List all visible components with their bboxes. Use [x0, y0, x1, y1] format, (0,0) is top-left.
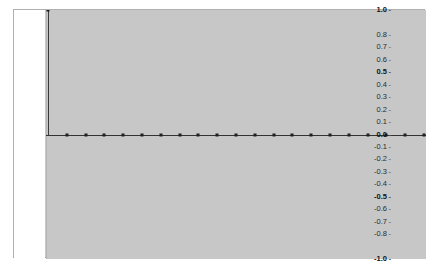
- y-axis-tick-label: 0.5-: [365, 68, 391, 76]
- y-axis-tick-mark: -: [388, 230, 391, 238]
- y-axis-tick-text: -1.0: [374, 254, 387, 263]
- y-axis-tick-mark: -: [388, 68, 391, 76]
- data-point-marker: [47, 10, 50, 12]
- y-axis-tick-label: 0.8-: [365, 31, 391, 39]
- y-axis-tick-mark: -: [388, 6, 391, 14]
- data-point-marker: [122, 134, 125, 137]
- data-point-marker: [160, 134, 163, 137]
- y-axis-tick-mark: -: [388, 81, 391, 89]
- y-axis-tick-mark: -: [388, 106, 391, 114]
- y-axis-tick-text: 0.7: [377, 42, 387, 51]
- y-axis-tick-text: -0.4: [374, 179, 387, 188]
- y-axis-tick-text: -0.3: [374, 167, 387, 176]
- y-axis-tick-mark: -: [388, 143, 391, 151]
- y-axis-tick-mark: -: [388, 93, 391, 101]
- y-axis-tick-label: -0.1-: [365, 143, 391, 151]
- y-axis-tick-label: 0.3-: [365, 93, 391, 101]
- y-axis-tick-text: 0.6: [377, 55, 387, 64]
- y-axis-tick-text: 0.8: [377, 30, 387, 39]
- y-axis-tick-text: 0.4: [377, 80, 387, 89]
- y-axis-tick-label: 0.7-: [365, 43, 391, 51]
- y-axis-tick-mark: -: [388, 255, 391, 263]
- y-axis-tick-label: -1.0-: [365, 255, 391, 263]
- data-point-marker: [197, 134, 200, 137]
- y-axis-tick-text: 0.1: [377, 117, 387, 126]
- y-axis-tick-mark: -: [388, 118, 391, 126]
- data-stem: [48, 10, 49, 135]
- y-axis-tick-label: 0.6-: [365, 56, 391, 64]
- y-axis-tick-label: 0.1-: [365, 118, 391, 126]
- y-axis-tick-label: -0.3-: [365, 168, 391, 176]
- y-axis-tick-text: -0.7: [374, 217, 387, 226]
- data-point-marker: [348, 134, 351, 137]
- y-axis-tick-text: 0.0: [377, 130, 387, 139]
- data-point-marker: [66, 134, 69, 137]
- y-axis-tick-label: -0.4-: [365, 180, 391, 188]
- y-axis-tick-label: 0.2-: [365, 106, 391, 114]
- y-axis-tick-text: -0.5: [374, 192, 387, 201]
- y-axis-tick-mark: -: [388, 193, 391, 201]
- data-point-marker: [273, 134, 276, 137]
- y-axis-tick-text: 0.3: [377, 92, 387, 101]
- data-point-marker: [141, 134, 144, 137]
- y-axis-tick-label: 0.0-: [365, 131, 391, 139]
- y-axis-tick-text: -0.2: [374, 154, 387, 163]
- y-axis-tick-text: 0.2: [377, 105, 387, 114]
- chart-panel: 1.0-0.8-0.7-0.6-0.5-0.4-0.3-0.2-0.1-0.0-…: [13, 9, 425, 258]
- y-axis-tick-mark: -: [388, 205, 391, 213]
- data-point-marker: [404, 134, 407, 137]
- y-axis-tick-mark: -: [388, 218, 391, 226]
- y-axis-tick-mark: -: [388, 155, 391, 163]
- y-axis-tick-text: -0.6: [374, 204, 387, 213]
- y-axis-tick-text: 1.0: [377, 5, 387, 14]
- data-point-marker: [235, 134, 238, 137]
- y-axis-tick-mark: -: [388, 31, 391, 39]
- data-point-marker: [423, 134, 426, 137]
- data-point-marker: [291, 134, 294, 137]
- data-point-marker: [179, 134, 182, 137]
- data-point-marker: [216, 134, 219, 137]
- y-axis-tick-label: -0.6-: [365, 205, 391, 213]
- y-axis-tick-label: 0.4-: [365, 81, 391, 89]
- y-axis-tick-label: 1.0-: [365, 6, 391, 14]
- y-axis-tick-text: -0.1: [374, 142, 387, 151]
- y-axis-tick-label: -0.2-: [365, 155, 391, 163]
- y-axis-tick-mark: -: [388, 131, 391, 139]
- data-point-marker: [103, 134, 106, 137]
- chart-figure: 1.0-0.8-0.7-0.6-0.5-0.4-0.3-0.2-0.1-0.0-…: [0, 0, 439, 273]
- data-point-marker: [310, 134, 313, 137]
- y-axis-tick-mark: -: [388, 56, 391, 64]
- y-axis-tick-mark: -: [388, 180, 391, 188]
- y-axis-tick-mark: -: [388, 168, 391, 176]
- y-axis-tick-label: -0.8-: [365, 230, 391, 238]
- y-axis-tick-text: -0.8: [374, 229, 387, 238]
- data-point-marker: [254, 134, 257, 137]
- y-axis-label-strip: [14, 10, 45, 259]
- data-point-marker: [329, 134, 332, 137]
- y-axis-tick-text: 0.5: [377, 67, 387, 76]
- y-axis-tick-mark: -: [388, 43, 391, 51]
- y-axis-tick-label: -0.7-: [365, 218, 391, 226]
- data-point-marker: [85, 134, 88, 137]
- y-axis-tick-label: -0.5-: [365, 193, 391, 201]
